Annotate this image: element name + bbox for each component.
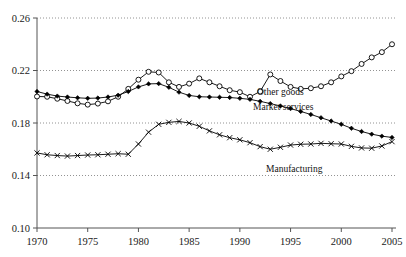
series-line: [37, 84, 392, 138]
series-line: [37, 121, 392, 156]
x-tick-label-1985: 1985: [179, 236, 200, 247]
data-point-marker: [217, 95, 221, 99]
x-tick-label-1995: 1995: [280, 236, 301, 247]
y-tick-label-0.14: 0.14: [12, 170, 31, 181]
x-tick-label-1980: 1980: [128, 236, 149, 247]
data-point-marker: [268, 72, 273, 77]
data-point-marker: [136, 77, 141, 82]
y-tick-label-0.10: 0.10: [12, 223, 30, 234]
data-point-marker: [380, 134, 384, 138]
data-point-marker: [167, 85, 171, 89]
data-point-marker: [207, 128, 212, 133]
data-point-marker: [85, 102, 90, 107]
data-point-marker: [197, 95, 201, 99]
data-point-marker: [308, 86, 313, 91]
line-chart: 0.260.220.180.140.10 1970197519801985199…: [0, 0, 406, 257]
data-point-marker: [207, 80, 212, 85]
y-tick-label-0.22: 0.22: [12, 65, 30, 76]
data-point-marker: [177, 84, 182, 89]
data-point-marker: [329, 119, 333, 123]
series-line: [37, 44, 392, 104]
data-point-marker: [369, 55, 374, 60]
data-point-marker: [197, 124, 202, 129]
series-market-services: [35, 81, 394, 139]
data-point-marker: [217, 132, 222, 137]
data-point-marker: [390, 42, 395, 47]
data-point-marker: [370, 132, 374, 136]
data-point-marker: [156, 70, 161, 75]
data-point-marker: [177, 90, 181, 94]
data-point-marker: [96, 96, 100, 100]
data-point-marker: [95, 101, 100, 106]
data-point-marker: [187, 93, 191, 97]
data-point-marker: [349, 126, 353, 130]
x-tick-label-2005: 2005: [382, 236, 403, 247]
series-annotations: Other goodsMarket servicesManufacturing: [253, 87, 323, 174]
data-point-marker: [157, 81, 161, 85]
data-series-layer: [34, 42, 394, 159]
series-label-manufacturing: Manufacturing: [266, 164, 323, 174]
series-label-market-services: Market services: [253, 102, 314, 112]
data-point-marker: [146, 69, 151, 74]
y-tick-label-0.26: 0.26: [12, 13, 30, 24]
data-point-marker: [237, 90, 242, 95]
data-point-marker: [136, 141, 141, 146]
data-point-marker: [390, 135, 394, 139]
data-point-marker: [35, 94, 40, 99]
data-point-marker: [227, 88, 232, 93]
chart-canvas: 0.260.220.180.140.10 1970197519801985199…: [0, 0, 406, 257]
data-point-marker: [86, 96, 90, 100]
data-point-marker: [166, 80, 171, 85]
data-point-marker: [106, 95, 110, 99]
data-point-marker: [319, 116, 323, 120]
data-point-marker: [187, 81, 192, 86]
data-point-marker: [228, 95, 232, 99]
data-point-marker: [75, 96, 79, 100]
y-tick-label-0.18: 0.18: [12, 118, 30, 129]
data-point-marker: [278, 79, 283, 84]
x-tick-label-1970: 1970: [27, 236, 48, 247]
data-point-marker: [146, 82, 150, 86]
x-axis-ticks: 19701975198019851990199520002005: [27, 228, 403, 247]
data-point-marker: [35, 89, 39, 93]
data-point-marker: [75, 101, 80, 106]
data-point-marker: [309, 112, 313, 116]
series-label-other-goods: Other goods: [257, 87, 304, 97]
data-point-marker: [217, 84, 222, 89]
x-tick-label-1975: 1975: [77, 236, 98, 247]
x-tick-label-2000: 2000: [331, 236, 352, 247]
data-point-marker: [258, 144, 263, 149]
x-tick-label-1990: 1990: [229, 236, 250, 247]
data-point-marker: [146, 130, 151, 135]
data-point-marker: [238, 96, 242, 100]
data-point-marker: [379, 50, 384, 55]
y-axis-ticks: 0.260.220.180.140.10: [12, 13, 37, 234]
data-point-marker: [359, 129, 363, 133]
data-point-marker: [349, 69, 354, 74]
data-point-marker: [207, 95, 211, 99]
data-point-marker: [136, 85, 140, 89]
data-point-marker: [329, 80, 334, 85]
data-point-marker: [247, 140, 252, 145]
data-point-marker: [197, 76, 202, 81]
data-point-marker: [339, 122, 343, 126]
data-point-marker: [339, 74, 344, 79]
data-point-marker: [319, 84, 324, 89]
data-point-marker: [359, 61, 364, 66]
